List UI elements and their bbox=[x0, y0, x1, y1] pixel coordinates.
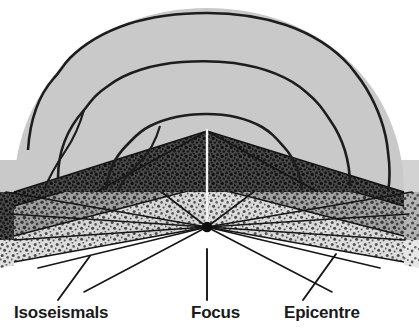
diagram-canvas bbox=[0, 0, 419, 333]
focus-point-dot bbox=[202, 222, 212, 232]
isoseismals-label: Isoseismals bbox=[14, 303, 108, 323]
epicentre-label: Epicentre bbox=[284, 303, 360, 323]
earthquake-diagram: Isoseismals Focus Epicentre bbox=[0, 0, 419, 333]
ground-surface-dome bbox=[14, 8, 404, 192]
focus-label: Focus bbox=[191, 303, 240, 323]
